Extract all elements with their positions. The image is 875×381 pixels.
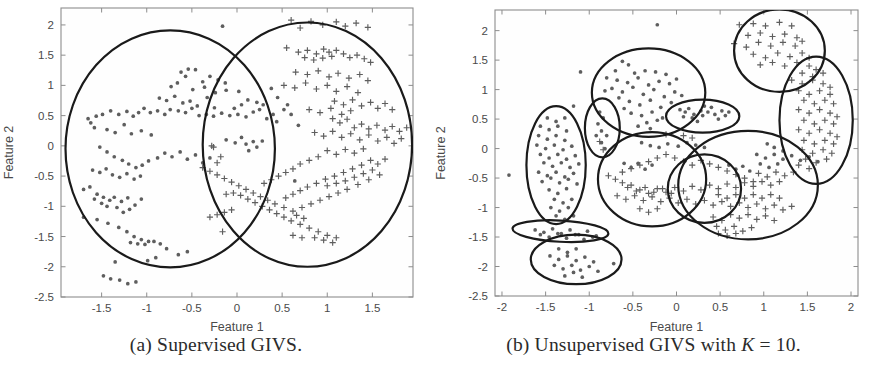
marker-dot [610, 87, 614, 91]
marker-dot [583, 255, 587, 259]
marker-dot [540, 180, 544, 184]
marker-dot [692, 113, 696, 117]
chart-supervised-givs: -1.5-1-0.500.511.521.510.50-0.5-1-1.5-2-… [0, 0, 432, 335]
marker-dot [286, 103, 290, 107]
marker-dot [767, 166, 771, 170]
y-tick-label: -2.5 [468, 290, 488, 302]
marker-dot [661, 116, 665, 120]
marker-dot [224, 88, 228, 92]
marker-dot [657, 80, 661, 84]
marker-dot [176, 81, 180, 85]
marker-dot [130, 132, 134, 136]
marker-dot [121, 211, 125, 215]
marker-dot [132, 177, 136, 181]
marker-dot [558, 209, 562, 213]
marker-dot [542, 161, 546, 165]
marker-dot [558, 181, 562, 185]
marker-dot [652, 88, 656, 92]
marker-dot [507, 173, 511, 177]
marker-dot [195, 104, 199, 108]
marker-dot [240, 136, 244, 140]
marker-dot [657, 146, 661, 150]
marker-dot [781, 157, 785, 161]
marker-dot [91, 168, 95, 172]
y-tick-label: -1 [44, 200, 54, 212]
marker-dot [666, 142, 670, 146]
x-tick-label: 0 [673, 301, 679, 313]
panel-supervised-givs: -1.5-1-0.500.511.521.510.50-0.5-1-1.5-2-… [0, 0, 432, 335]
marker-dot [246, 98, 250, 102]
marker-dot [566, 251, 570, 255]
marker-dot [232, 107, 236, 111]
marker-dot [565, 129, 569, 133]
marker-dot [706, 110, 710, 114]
marker-dot [638, 103, 642, 107]
marker-dot [191, 88, 195, 92]
marker-dot [548, 254, 552, 258]
marker-dot [82, 188, 86, 192]
marker-dot [220, 111, 224, 115]
marker-dot [566, 206, 570, 210]
x-tick-label: 1.5 [364, 302, 380, 314]
marker-dot [106, 221, 110, 225]
marker-dot [158, 242, 162, 246]
marker-dot [133, 203, 137, 207]
marker-dot [554, 170, 558, 174]
marker-dot [563, 138, 567, 142]
marker-dot [102, 195, 106, 199]
marker-dot [104, 167, 108, 171]
x-axis-label: Feature 1 [210, 320, 264, 334]
marker-dot [184, 111, 188, 115]
marker-dot [112, 195, 116, 199]
marker-dot [105, 128, 109, 132]
marker-dot [143, 243, 147, 247]
marker-dot [244, 115, 248, 119]
marker-dot [575, 182, 579, 186]
marker-dot [186, 67, 190, 71]
marker-dot [572, 171, 576, 175]
marker-dot [533, 228, 537, 232]
marker-dot [136, 242, 140, 246]
x-tick-label: -1.5 [536, 301, 556, 313]
marker-dot [168, 108, 172, 112]
marker-dot [163, 151, 167, 155]
y-tick-label: 0 [48, 140, 54, 152]
y-tick-label: -0.5 [468, 172, 488, 184]
marker-dot [647, 83, 651, 87]
marker-dot [112, 155, 116, 159]
caption-b-math-symbol: K [741, 334, 754, 355]
marker-dot [570, 197, 574, 201]
y-tick-label: -2.5 [34, 291, 54, 303]
marker-dot [247, 149, 251, 153]
marker-dot [537, 134, 541, 138]
y-tick-label: 2 [48, 19, 54, 31]
y-tick-label: 2 [482, 25, 488, 37]
marker-dot [181, 101, 185, 105]
marker-dot [546, 116, 550, 120]
marker-dot [113, 260, 117, 264]
marker-dot [650, 163, 654, 167]
marker-dot [586, 229, 590, 233]
marker-dot [139, 197, 143, 201]
marker-dot [554, 120, 558, 124]
marker-dot [255, 145, 259, 149]
marker-dot [152, 240, 156, 244]
marker-dot [108, 198, 112, 202]
marker-dot [696, 120, 700, 124]
marker-dot [129, 241, 133, 245]
y-tick-label: 1 [482, 84, 488, 96]
marker-dot [126, 282, 130, 286]
marker-dot [565, 187, 569, 191]
marker-dot [643, 69, 647, 73]
marker-dot [675, 77, 679, 81]
marker-dot [134, 166, 138, 170]
marker-dot [641, 92, 645, 96]
x-tick-label: 0 [234, 302, 240, 314]
marker-dot [113, 131, 117, 135]
figure-panels-row: -1.5-1-0.500.511.521.510.50-0.5-1-1.5-2-… [0, 0, 875, 335]
y-tick-label: 1.5 [472, 54, 488, 66]
marker-dot [179, 70, 183, 74]
marker-dot [131, 114, 135, 118]
marker-dot [120, 200, 124, 204]
marker-dot [127, 162, 131, 166]
